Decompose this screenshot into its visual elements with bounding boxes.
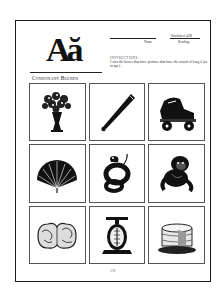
name-field-line[interactable] xyxy=(110,38,156,39)
picture-box-roller-skate[interactable] xyxy=(148,83,205,141)
page-number: 178 xyxy=(110,269,115,273)
picture-box-ape[interactable] xyxy=(148,144,205,202)
instructions-text: Color the boxes that have pictures that … xyxy=(110,60,208,69)
vase-of-flowers-icon xyxy=(34,89,80,135)
picture-box-cake[interactable] xyxy=(148,206,205,264)
worksheet-page: Aă Consonant Blends Name Worksheet 42B R… xyxy=(15,20,211,282)
picture-grid xyxy=(29,83,205,264)
logo: Aă Consonant Blends xyxy=(30,30,100,82)
name-label: Name xyxy=(144,40,152,44)
ape-icon xyxy=(154,150,200,196)
picture-box-flower-vase[interactable] xyxy=(29,83,86,141)
subject-label: Reading xyxy=(178,40,189,44)
picture-box-snake[interactable] xyxy=(89,144,146,202)
scale-icon xyxy=(94,212,140,258)
worksheet-divider xyxy=(170,38,200,39)
skate-icon xyxy=(154,89,200,135)
picture-box-hand-fan[interactable] xyxy=(29,144,86,202)
picture-box-baseball-bat[interactable] xyxy=(89,83,146,141)
logo-letters: Aă xyxy=(46,30,80,70)
cake-icon xyxy=(154,212,200,258)
snake-icon xyxy=(94,150,140,196)
picture-box-brain[interactable] xyxy=(29,206,86,264)
fan-icon xyxy=(34,150,80,196)
logo-caption: Consonant Blends xyxy=(32,75,78,81)
brain-icon xyxy=(34,212,80,258)
picture-box-scale[interactable] xyxy=(89,206,146,264)
bat-icon xyxy=(94,89,140,135)
logo-divider xyxy=(30,72,102,73)
